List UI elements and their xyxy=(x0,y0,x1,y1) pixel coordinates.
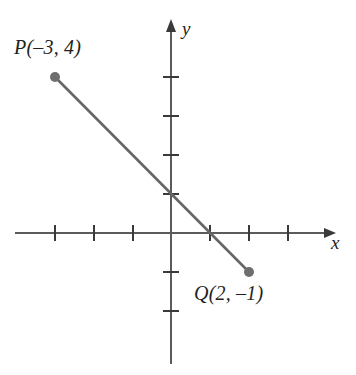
y-axis-arrowhead xyxy=(166,19,176,32)
point-q-label: Q(2, –1) xyxy=(194,282,263,305)
point-q-marker xyxy=(244,267,254,277)
point-p-marker xyxy=(50,72,60,82)
segment-pq xyxy=(55,77,249,272)
y-axis-label: y xyxy=(182,18,190,40)
x-axis-label: x xyxy=(331,232,339,254)
coordinate-plane-figure: P(–3, 4) Q(2, –1) x y xyxy=(0,0,356,375)
point-p-label: P(–3, 4) xyxy=(14,36,81,59)
